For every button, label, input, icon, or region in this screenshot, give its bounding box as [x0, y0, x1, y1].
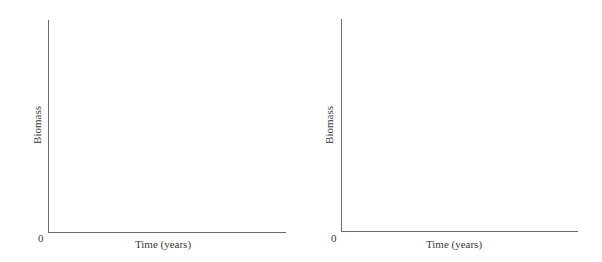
x-axis [341, 231, 578, 232]
origin-label: 0 [331, 233, 337, 244]
y-axis [341, 19, 342, 232]
x-axis-label: Time (years) [426, 238, 482, 250]
chart-right: 0 Time (years) Biomass [0, 0, 602, 262]
y-axis-label: Biomass [323, 106, 335, 144]
